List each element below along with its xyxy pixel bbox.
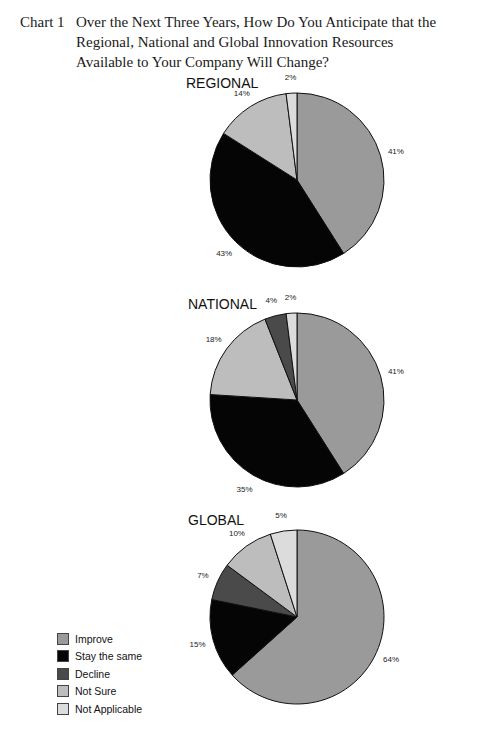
legend-item-stay-the-same: Stay the same <box>57 648 142 666</box>
legend-label: Not Applicable <box>75 703 142 715</box>
legend-swatch <box>57 668 69 680</box>
pie-label: 64% <box>383 655 399 664</box>
legend-swatch <box>57 685 69 697</box>
legend-swatch <box>57 633 69 645</box>
pie-label: 2% <box>285 73 297 82</box>
pie-label: 14% <box>234 89 250 98</box>
pie-global: 64%15%7%10%5% <box>190 511 399 704</box>
pie-label: 7% <box>197 571 209 580</box>
legend: ImproveStay the sameDeclineNot SureNot A… <box>57 630 142 718</box>
legend-label: Improve <box>75 633 113 645</box>
legend-label: Stay the same <box>75 650 142 662</box>
legend-item-improve: Improve <box>57 630 142 648</box>
pie-label: 10% <box>229 529 245 538</box>
pie-label: 4% <box>266 296 278 305</box>
legend-item-decline: Decline <box>57 665 142 683</box>
legend-label: Not Sure <box>75 685 116 697</box>
pie-label: 2% <box>285 293 297 302</box>
legend-label: Decline <box>75 668 110 680</box>
pie-label: 43% <box>216 249 232 258</box>
pie-label: 18% <box>206 335 222 344</box>
pie-label: 41% <box>388 147 404 156</box>
legend-swatch <box>57 703 69 715</box>
pie-label: 5% <box>275 511 287 520</box>
pie-label: 15% <box>190 640 206 649</box>
pie-label: 41% <box>388 367 404 376</box>
legend-item-not-sure: Not Sure <box>57 683 142 701</box>
legend-swatch <box>57 650 69 662</box>
legend-item-not-applicable: Not Applicable <box>57 700 142 718</box>
pie-national: 41%35%18%4%2% <box>206 293 404 493</box>
pie-regional: 41%43%14%2% <box>210 73 404 267</box>
pie-label: 35% <box>237 485 253 494</box>
